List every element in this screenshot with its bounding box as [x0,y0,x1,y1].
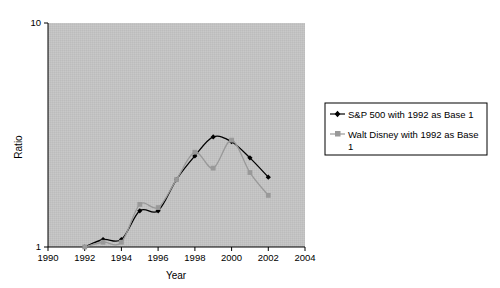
y-axis-ticks [44,23,48,247]
data-point-marker [248,170,253,175]
x-tick-label-1990: 1990 [37,252,58,263]
x-tick-label-1994: 1994 [111,252,132,263]
data-point-marker [174,177,179,182]
x-tick-label-1992: 1992 [74,252,95,263]
data-point-marker [266,193,271,198]
y-tick-label-10: 10 [30,17,41,28]
y-tick-label-1: 1 [36,241,41,252]
y-axis-title: Ratio [13,135,24,159]
chart-container: 10 1 Ratio 1990 1992 1994 1996 1998 2000… [0,0,500,288]
legend-marker-square-icon [335,131,341,137]
data-point-marker [211,166,216,171]
x-tick-label-2000: 2000 [221,252,242,263]
legend-label-walt-disney-line2: 1 [348,141,353,152]
data-point-marker [137,202,142,207]
data-point-marker [156,205,161,210]
plot-area-background [48,23,305,247]
legend-item-sp500[interactable]: S&P 500 with 1992 as Base 1 [330,109,474,120]
legend-label-walt-disney-line1: Walt Disney with 1992 as Base [348,129,479,140]
legend-label-sp500: S&P 500 with 1992 as Base 1 [348,109,474,120]
line-chart: 10 1 Ratio 1990 1992 1994 1996 1998 2000… [0,0,500,288]
data-point-marker [192,150,197,155]
x-axis-title: Year [166,270,187,281]
data-point-marker [101,240,106,245]
data-point-marker [229,138,234,143]
x-tick-label-1998: 1998 [184,252,205,263]
x-tick-label-2002: 2002 [258,252,279,263]
data-point-marker [82,245,87,250]
x-tick-label-2004: 2004 [294,252,315,263]
data-point-marker [119,240,124,245]
x-tick-label-1996: 1996 [148,252,169,263]
